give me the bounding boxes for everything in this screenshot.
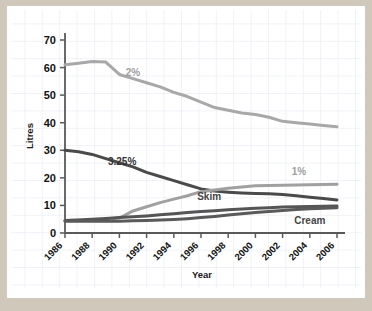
series-label-2: 2% (126, 67, 141, 78)
y-axis-tick-label: 70 (44, 34, 56, 46)
series-label-1: 1% (292, 166, 307, 177)
series-label-cream: Cream (294, 215, 325, 226)
y-axis-tick-label: 40 (44, 117, 56, 129)
line-chart: 0102030405060701986198819901992199419961… (7, 6, 365, 298)
series-label-325: 3.25% (108, 156, 136, 167)
y-axis-tick-label: 30 (44, 144, 56, 156)
chart-frame: 0102030405060701986198819901992199419961… (0, 0, 372, 311)
y-axis-tick-label: 10 (44, 199, 56, 211)
x-axis-title: Year (192, 269, 212, 280)
y-axis-tick-label: 20 (44, 172, 56, 184)
y-axis-title: Litres (24, 123, 35, 149)
y-axis-tick-label: 60 (44, 62, 56, 74)
y-axis-tick-label: 0 (50, 227, 56, 239)
chart-card: 0102030405060701986198819901992199419961… (7, 6, 365, 298)
series-label-skim: Skim (197, 191, 221, 202)
y-axis-tick-label: 50 (44, 89, 56, 101)
